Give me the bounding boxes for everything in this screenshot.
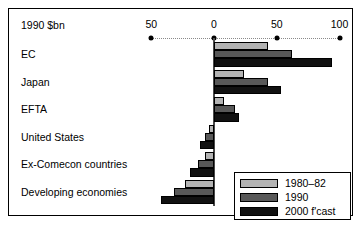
bar xyxy=(214,78,268,86)
bar xyxy=(205,152,214,160)
legend-item-2: 2000 f'cast xyxy=(240,204,345,218)
bar xyxy=(214,86,281,94)
bar xyxy=(174,188,214,196)
legend-item-1: 1990 xyxy=(240,190,345,204)
bar xyxy=(198,160,214,168)
axis-tick-label-2: 50 xyxy=(271,18,283,30)
category-label-3: United States xyxy=(21,131,84,143)
legend-label-0: 1980–82 xyxy=(285,178,326,189)
axis-tick-label-1: 0 xyxy=(211,18,217,30)
category-label-1: Japan xyxy=(21,76,50,88)
bar xyxy=(214,97,224,105)
bar xyxy=(190,168,214,176)
bar xyxy=(161,196,214,204)
bar xyxy=(214,105,235,113)
legend-swatch-0 xyxy=(240,179,278,188)
chart-legend: 1980–8219902000 f'cast xyxy=(234,172,351,220)
category-label-2: EFTA xyxy=(21,103,47,115)
axis-tick-dot-3 xyxy=(337,36,342,41)
bar xyxy=(185,180,214,188)
legend-label-2: 2000 f'cast xyxy=(285,206,335,217)
legend-label-1: 1990 xyxy=(285,192,308,203)
category-label-4: Ex-Comecon countries xyxy=(21,158,127,170)
axis-tick-label-0: 50 xyxy=(145,18,157,30)
axis-tick-dot-0 xyxy=(149,36,154,41)
bar xyxy=(214,58,332,66)
bar xyxy=(205,133,214,141)
chart-frame: 1990 $bn 50050100 ECJapanEFTAUnited Stat… xyxy=(8,8,353,216)
bar xyxy=(209,125,214,133)
bar xyxy=(214,42,268,50)
unit-label: 1990 $bn xyxy=(21,19,65,31)
bar xyxy=(214,50,292,58)
legend-item-0: 1980–82 xyxy=(240,176,345,190)
legend-swatch-1 xyxy=(240,193,278,202)
category-label-5: Developing economies xyxy=(21,186,127,198)
legend-swatch-2 xyxy=(240,207,278,216)
bar xyxy=(200,141,214,149)
axis-dotted-rule xyxy=(151,38,339,39)
axis-tick-label-3: 100 xyxy=(331,18,349,30)
axis-tick-dot-2 xyxy=(274,36,279,41)
category-label-0: EC xyxy=(21,48,36,60)
bar xyxy=(214,70,244,78)
bar xyxy=(214,113,239,121)
